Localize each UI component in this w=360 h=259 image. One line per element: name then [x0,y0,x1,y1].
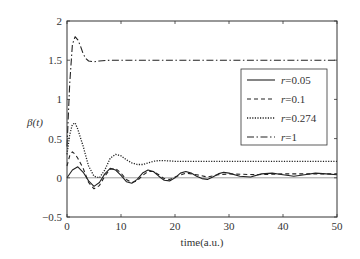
x-axis-label: time(a.u.) [181,236,224,249]
x-tick-label: 40 [278,220,290,232]
x-tick-label: 20 [170,220,182,232]
x-tick-label: 10 [116,220,128,232]
y-tick-label: 1 [57,93,63,105]
y-tick-label: 0.5 [48,133,62,145]
y-tick-label: −0.5 [42,211,62,223]
series-line-r-0-1 [67,152,337,189]
chart-canvas: 01020304050 −0.500.511.52 time(a.u.) β(t… [0,0,360,259]
legend: r=0.05r=0.1r=0.274r=1 [241,69,327,145]
x-tick-label: 0 [64,220,70,232]
x-tick-label: 30 [224,220,236,232]
legend-label: r=1 [281,131,297,143]
legend-label: r=0.274 [281,112,317,124]
series-line-r-0-05 [67,167,337,187]
legend-label: r=0.05 [281,74,311,86]
y-tick-label: 2 [57,15,63,27]
y-tick-label: 1.5 [48,54,62,66]
legend-label: r=0.1 [281,93,305,105]
x-tick-label: 50 [332,220,344,232]
y-tick-label: 0 [57,172,63,184]
y-axis-label: β(t) [26,116,43,129]
